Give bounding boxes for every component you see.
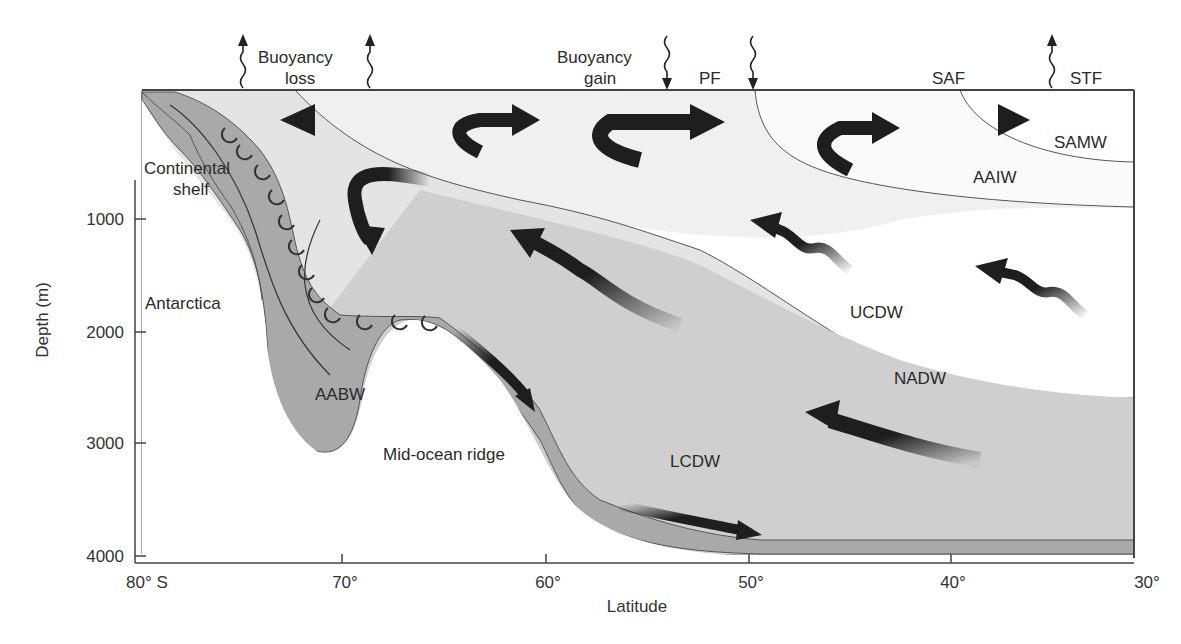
y-tick-3000: 3000 <box>86 434 124 453</box>
y-tick-1000: 1000 <box>86 210 124 229</box>
buoyancy-loss-label-2: loss <box>285 69 315 88</box>
buoyancy-loss-label: Buoyancy <box>258 48 333 67</box>
polar-front-label: PF <box>699 69 721 88</box>
subantarctic-front-label: SAF <box>932 69 965 88</box>
mid-ocean-ridge-label: Mid-ocean ridge <box>383 445 505 464</box>
subtropical-front-label: STF <box>1070 69 1102 88</box>
aabw-label: AABW <box>315 385 365 404</box>
x-tick-40: 40° <box>940 573 966 592</box>
x-tick-30: 30° <box>1134 573 1160 592</box>
x-tick-80s: 80° S <box>126 573 168 592</box>
buoyancy-gain-label: Buoyancy <box>557 48 632 67</box>
nadw-label: NADW <box>894 369 946 388</box>
y-tick-4000: 4000 <box>86 547 124 566</box>
y-axis-label: Depth (m) <box>33 282 52 358</box>
lcdw-label: LCDW <box>670 452 720 471</box>
samw-label: SAMW <box>1054 133 1107 152</box>
antarctica-label: Antarctica <box>145 294 221 313</box>
x-axis-label: Latitude <box>607 597 668 616</box>
x-tick-60: 60° <box>535 573 561 592</box>
x-tick-50: 50° <box>738 573 764 592</box>
overturning-circulation-diagram: 1000 2000 3000 4000 Depth (m) 80° S 70° … <box>0 0 1181 644</box>
buoyancy-gain-label-2: gain <box>584 69 616 88</box>
y-tick-2000: 2000 <box>86 323 124 342</box>
x-tick-70: 70° <box>332 573 358 592</box>
continental-shelf-label: Continental <box>144 159 230 178</box>
ucdw-label: UCDW <box>850 303 903 322</box>
continental-shelf-label-2: shelf <box>173 180 209 199</box>
aaiw-label: AAIW <box>973 168 1016 187</box>
